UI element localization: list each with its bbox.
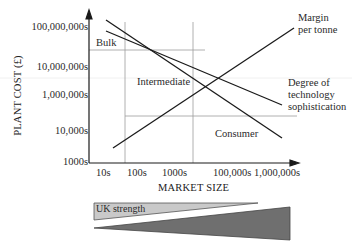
tech-label-line3: sophistication <box>288 101 346 113</box>
y-axis-arrow-icon <box>86 10 92 19</box>
x-axis-arrow-icon <box>290 160 299 166</box>
x-tick-label: 1,000,000s <box>254 167 300 179</box>
margin-label-line1: Margin <box>298 12 329 24</box>
region-label-bulk: Bulk <box>96 37 116 49</box>
tech-label-line1: Degree of <box>288 77 330 89</box>
uk-strength-label: UK strength <box>96 203 145 215</box>
plant-cost-steep-line <box>106 20 282 138</box>
y-tick-label: 10,000,000s <box>37 61 88 73</box>
x-tick-label: 100,000s <box>213 167 251 179</box>
axes <box>86 10 299 166</box>
x-tick-label: 1000s <box>162 167 187 179</box>
y-tick-label: 100,000,000s <box>31 21 88 33</box>
y-tick-label: 1000s <box>63 156 88 168</box>
region-gridlines <box>89 22 297 163</box>
y-axis-title: PLANT COST (£) <box>12 41 23 151</box>
tech-label-line2: technology <box>288 89 335 101</box>
y-tick-label: 1,000,000s <box>42 89 88 101</box>
market-size-diagram <box>0 0 352 252</box>
region-label-consumer: Consumer <box>215 128 258 140</box>
margin-label-line2: per tonne <box>298 24 337 36</box>
y-tick-label: 10,000s <box>55 125 88 137</box>
x-tick-label: 100s <box>127 167 147 179</box>
region-label-intermediate: Intermediate <box>137 76 190 88</box>
x-tick-label: 10s <box>96 167 111 179</box>
x-axis-title: MARKET SIZE <box>158 182 229 193</box>
